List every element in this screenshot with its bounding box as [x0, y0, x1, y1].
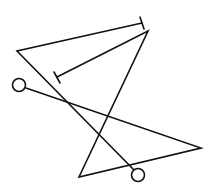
line-drawing	[0, 0, 214, 195]
polyline-b	[26, 31, 201, 177]
circle-terminal-left	[13, 79, 26, 92]
t-bar-terminal-middle	[54, 72, 60, 83]
circle-terminal-bottom	[132, 169, 145, 182]
polyline-a	[17, 23, 142, 170]
diagram-canvas	[0, 0, 214, 195]
